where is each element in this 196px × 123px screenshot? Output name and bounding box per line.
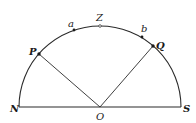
label-o: O [96, 111, 104, 122]
point-b-marker [141, 36, 144, 39]
segment-oq [100, 46, 153, 107]
label-q: Q [156, 40, 165, 51]
semicircle-arc [19, 26, 181, 107]
label-b: b [141, 23, 147, 34]
label-z: Z [95, 12, 104, 23]
point-p-marker [37, 52, 40, 55]
label-a: a [68, 18, 74, 29]
label-s: S [183, 103, 190, 114]
segment-op [39, 54, 100, 107]
label-n: N [9, 103, 20, 114]
label-p: P [28, 46, 37, 57]
point-z-marker [99, 25, 102, 28]
point-q-marker [151, 44, 154, 47]
semicircle-diagram: N S O Z a b P Q [0, 0, 196, 123]
point-a-marker [73, 29, 76, 32]
